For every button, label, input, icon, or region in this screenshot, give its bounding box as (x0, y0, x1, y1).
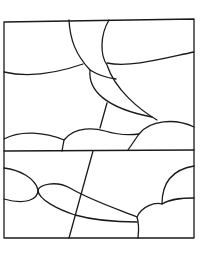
cloud-upper-middle (64, 129, 139, 150)
sun-ray-right (102, 20, 157, 120)
panel-divider (4, 150, 194, 151)
cloud-lower-left (4, 168, 38, 202)
cloud-lower-right-base (137, 198, 194, 217)
cloud-elongated (38, 184, 139, 238)
line-art-canvas (0, 0, 203, 256)
outer-frame (4, 19, 194, 238)
cloud-upper-left (4, 133, 64, 151)
cloud-upper-right (139, 122, 194, 134)
cloud-tail (38, 190, 137, 222)
sky-band-left (4, 64, 83, 74)
stained-glass-drawing (0, 0, 203, 256)
diagonal-line-upper (100, 103, 107, 128)
sky-band-right (107, 52, 194, 64)
